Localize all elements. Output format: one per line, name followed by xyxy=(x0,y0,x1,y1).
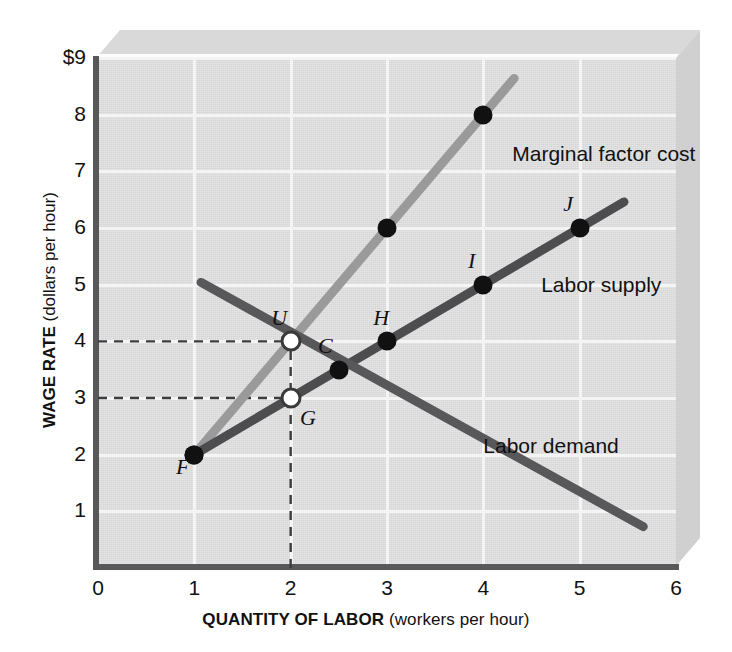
x-tick-label: 4 xyxy=(463,576,503,600)
series-line-marginal-factor-cost xyxy=(194,78,514,454)
y-axis-title: WAGE RATE (dollars per hour) xyxy=(40,110,60,510)
data-point-marker xyxy=(378,219,397,238)
y-tick-label: $9 xyxy=(34,45,86,69)
data-point-label-c: C xyxy=(318,333,333,359)
series-label-marginal-factor-cost: Marginal factor cost xyxy=(512,142,695,166)
data-point-label-g: G xyxy=(300,405,316,431)
data-point-marker xyxy=(378,332,397,351)
x-tick-label: 3 xyxy=(367,576,407,600)
x-tick-label: 0 xyxy=(78,576,118,600)
y-axis-title-bold: WAGE RATE xyxy=(40,326,59,428)
x-tick-label: 5 xyxy=(560,576,600,600)
data-point-label-i: I xyxy=(468,248,475,274)
y-axis-title-unit: (dollars per hour) xyxy=(40,192,59,321)
data-point-label-u: U xyxy=(271,305,287,331)
data-point-marker xyxy=(280,331,301,352)
data-point-label-h: H xyxy=(373,305,389,331)
x-axis-title-unit: (workers per hour) xyxy=(389,610,530,629)
curves-layer xyxy=(0,0,732,652)
x-tick-label: 6 xyxy=(656,576,696,600)
chart-figure: FUGCHIJ Marginal factor costLabor supply… xyxy=(0,0,732,652)
data-point-label-f: F xyxy=(176,454,189,480)
data-point-marker xyxy=(329,360,348,379)
x-axis-title: QUANTITY OF LABOR (workers per hour) xyxy=(0,610,732,630)
series-label-labor-demand: Labor demand xyxy=(483,434,618,458)
series-label-labor-supply: Labor supply xyxy=(541,273,661,297)
data-point-label-j: J xyxy=(563,191,573,217)
x-axis-title-bold: QUANTITY OF LABOR xyxy=(202,610,384,629)
data-point-marker xyxy=(570,219,589,238)
data-point-marker xyxy=(474,105,493,124)
data-point-marker xyxy=(474,275,493,294)
x-tick-label: 2 xyxy=(271,576,311,600)
x-tick-label: 1 xyxy=(174,576,214,600)
data-point-marker xyxy=(280,388,301,409)
series-line-labor-supply xyxy=(194,202,624,455)
